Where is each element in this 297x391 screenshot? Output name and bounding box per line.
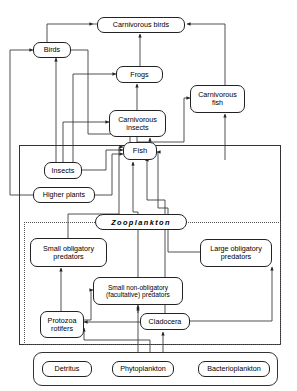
node-small-obligatory-predators[interactable]: Small obligatory predators bbox=[30, 238, 107, 267]
node-higher-plants[interactable]: Higher plants bbox=[33, 187, 95, 203]
node-carnivorous-birds[interactable]: Carnivorous birds bbox=[97, 17, 185, 33]
zooplankton-group-label: Zooplankton bbox=[95, 214, 187, 230]
node-large-obligatory-predators[interactable]: Large obligatory predators bbox=[200, 239, 272, 267]
node-carnivorous-fish[interactable]: Carnivorous fish bbox=[190, 85, 245, 113]
node-label: Detritus bbox=[45, 365, 89, 373]
node-label: Fish bbox=[126, 147, 154, 155]
node-carnivorous-insects[interactable]: Carnivorous insects bbox=[109, 110, 166, 137]
node-label: Frogs bbox=[119, 71, 160, 79]
node-label: Carnivorous birds bbox=[100, 21, 182, 29]
node-label-line2: predators bbox=[203, 253, 269, 261]
node-label: Phytoplankton bbox=[115, 365, 171, 373]
node-label: Birds bbox=[36, 46, 68, 54]
node-protozoa-rotifers[interactable]: Protozoa rotifers bbox=[40, 311, 84, 338]
node-label-line2: rotifers bbox=[43, 325, 81, 333]
node-fish[interactable]: Fish bbox=[123, 142, 157, 160]
node-label: Bacterioplankton bbox=[201, 365, 267, 373]
node-cladocera[interactable]: Cladocera bbox=[140, 313, 190, 330]
node-label-line2: insects bbox=[112, 124, 163, 132]
node-label: Higher plants bbox=[36, 191, 92, 199]
node-frogs[interactable]: Frogs bbox=[116, 66, 163, 83]
node-label-line2: predators bbox=[33, 253, 104, 261]
node-birds[interactable]: Birds bbox=[33, 42, 71, 58]
node-small-non-obligatory-predators[interactable]: Small non-obligatory (facultative) preda… bbox=[93, 277, 183, 305]
node-label-line1: Small non-obligatory bbox=[96, 284, 180, 291]
food-web-diagram: Carnivorous birds Birds Frogs Carnivorou… bbox=[0, 0, 297, 391]
zooplankton-label-text: Zooplankton bbox=[111, 218, 171, 227]
node-label-line2: fish bbox=[193, 99, 242, 107]
node-insects[interactable]: Insects bbox=[44, 162, 82, 179]
node-label-line2: (facultative) predators bbox=[96, 291, 180, 298]
node-bacterioplankton[interactable]: Bacterioplankton bbox=[198, 361, 270, 377]
node-label: Insects bbox=[47, 167, 79, 175]
node-phytoplankton[interactable]: Phytoplankton bbox=[112, 361, 174, 377]
node-label: Cladocera bbox=[143, 318, 187, 326]
node-detritus[interactable]: Detritus bbox=[42, 361, 92, 377]
